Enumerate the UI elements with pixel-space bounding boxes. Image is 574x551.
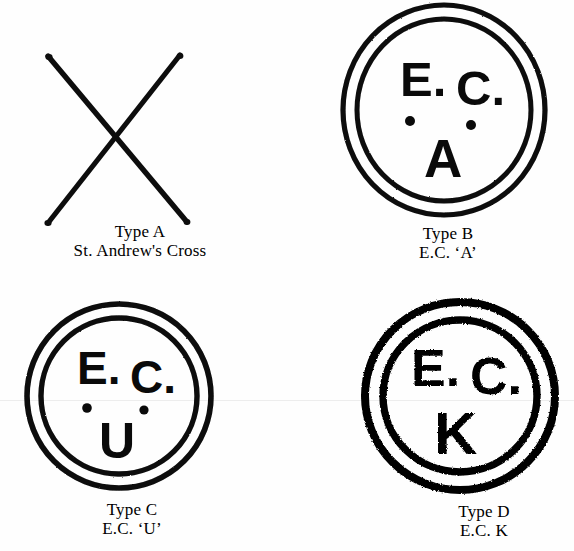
caption-d-line2: E.C. K — [400, 521, 568, 540]
mark-type-d: E. C. K — [358, 296, 568, 504]
caption-c-line1: Type C — [42, 500, 222, 519]
mark-c-letter-e: E. — [77, 342, 120, 394]
mark-c-lettering: E. C. U — [77, 342, 176, 469]
caption-type-d: Type D E.C. K — [400, 502, 568, 540]
mark-c-dot-right — [139, 405, 148, 414]
terminal-tr — [177, 53, 184, 59]
caption-type-c: Type C E.C. ‘U’ — [42, 500, 222, 538]
mark-b-dot-left — [405, 116, 415, 126]
mark-type-b: E. C. A — [336, 0, 552, 222]
caption-c-line2: E.C. ‘U’ — [42, 519, 222, 538]
saltire-strokes — [44, 53, 190, 226]
mark-c-dot-left — [82, 403, 92, 413]
caption-b-line1: Type B — [364, 224, 532, 243]
caption-type-b: Type B E.C. ‘A’ — [364, 224, 532, 262]
caption-b-line2: E.C. ‘A’ — [364, 243, 532, 262]
mark-b-dot-right — [466, 120, 476, 130]
mark-d-lettering: E. C. K — [411, 339, 522, 467]
mark-type-a — [30, 40, 230, 240]
caption-a-line1: Type A — [28, 222, 252, 241]
mark-b-letter-c: C. — [456, 61, 505, 115]
caption-type-a: Type A St. Andrew's Cross — [28, 222, 252, 260]
mark-b-letter-e: E. — [400, 52, 446, 106]
terminal-tl — [45, 54, 52, 60]
mark-b-letter-bottom: A — [424, 129, 462, 188]
figure-plate: Type A St. Andrew's Cross E. C. A — [0, 0, 574, 551]
caption-d-line1: Type D — [400, 502, 568, 521]
mark-type-c: E. C. U — [22, 300, 222, 500]
mark-b-lettering: E. C. A — [400, 52, 505, 188]
mark-c-letter-bottom: U — [99, 413, 135, 469]
mark-d-letter-c: C. — [470, 347, 522, 405]
mark-d-letter-e: E. — [411, 339, 460, 397]
mark-d-letter-bottom: K — [434, 400, 477, 467]
caption-a-line2: St. Andrew's Cross — [28, 241, 252, 260]
mark-c-letter-c: C. — [130, 351, 176, 403]
